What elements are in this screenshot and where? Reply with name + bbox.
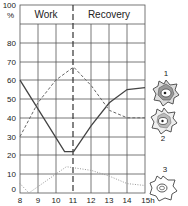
cell-medium-icon [151,108,177,134]
legend-item-3: 3 [150,165,177,201]
x-tick: 8 [18,196,23,205]
y-tick: 80 [7,39,16,48]
x-tick: 12 [87,196,96,205]
series-3-line [20,167,145,193]
legend-label: 3 [163,165,168,174]
phase-recovery-label: Recovery [88,9,130,20]
y-tick: 0 [12,185,17,194]
y-tick: 70 [7,58,16,67]
series-1-line [20,80,145,151]
x-tick: 11 [69,196,78,205]
y-tick: 50 [7,95,16,104]
cell-dense-icon [153,80,179,106]
y-tick: 20 [7,151,16,160]
grid [20,5,145,193]
chart: Work Recovery 100 % 80 70 60 50 40 30 20… [0,0,188,206]
x-tick: 10 [52,196,61,205]
y-tick: 30 [7,133,16,142]
x-tick: 13 [105,196,114,205]
legend-label: 2 [161,134,166,143]
y-unit: % [7,11,14,20]
legend-label: 1 [164,69,169,78]
legend-item-2: 2 [151,108,177,143]
series-2-line [20,67,145,137]
phase-work-label: Work [34,9,58,20]
x-tick: 15h [141,196,154,205]
x-tick: 9 [36,196,41,205]
y-tick: 100 [3,1,17,10]
y-tick: 10 [7,170,16,179]
x-tick: 14 [123,196,132,205]
legend-item-1: 1 [153,69,179,106]
y-tick: 60 [7,76,16,85]
y-tick: 40 [7,114,16,123]
